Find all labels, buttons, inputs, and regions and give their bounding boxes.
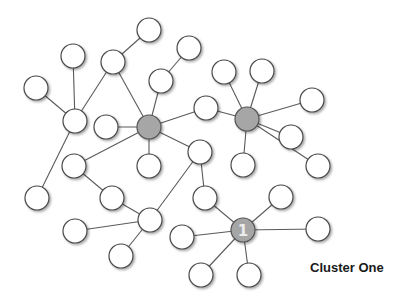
- node: [137, 18, 161, 42]
- node: [63, 109, 87, 133]
- node: [149, 69, 173, 93]
- node: [306, 154, 330, 178]
- node: [100, 186, 124, 210]
- node: [109, 244, 133, 268]
- node: [177, 36, 201, 60]
- node: [189, 263, 213, 287]
- hub-node: [137, 115, 161, 139]
- node: [269, 185, 293, 209]
- node: [63, 219, 87, 243]
- node: [212, 60, 236, 84]
- network-graph: 1: [0, 0, 408, 302]
- node: [24, 76, 48, 100]
- cluster-caption: Cluster One: [310, 260, 384, 275]
- node: [231, 153, 255, 177]
- node: [138, 208, 162, 232]
- hub-node-label: 1: [238, 222, 248, 240]
- node: [300, 88, 324, 112]
- node: [279, 125, 303, 149]
- node: [61, 44, 85, 68]
- node: [193, 186, 217, 210]
- node: [62, 154, 86, 178]
- node: [25, 186, 49, 210]
- node: [137, 154, 161, 178]
- node: [250, 59, 274, 83]
- node: [94, 115, 118, 139]
- node: [188, 140, 212, 164]
- nodes: 1: [24, 18, 330, 287]
- node: [194, 96, 218, 120]
- hub-node: [235, 107, 259, 131]
- node: [306, 217, 330, 241]
- node: [237, 263, 261, 287]
- network-diagram: 1 Cluster One: [0, 0, 408, 302]
- node: [101, 50, 125, 74]
- node: [170, 225, 194, 249]
